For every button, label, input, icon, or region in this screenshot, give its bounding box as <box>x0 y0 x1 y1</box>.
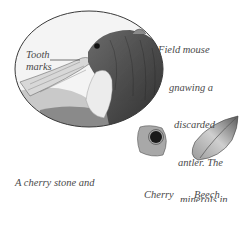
tooth-marks-label: Toothmarks <box>26 49 52 73</box>
beech-nut-label: Beech nut <box>194 164 220 202</box>
mouse-eye <box>94 43 100 49</box>
nibbled-caption: A cherry stone and beech nut nibbled by … <box>15 152 102 202</box>
cherry-stone-label: Cherry stone <box>144 164 174 202</box>
